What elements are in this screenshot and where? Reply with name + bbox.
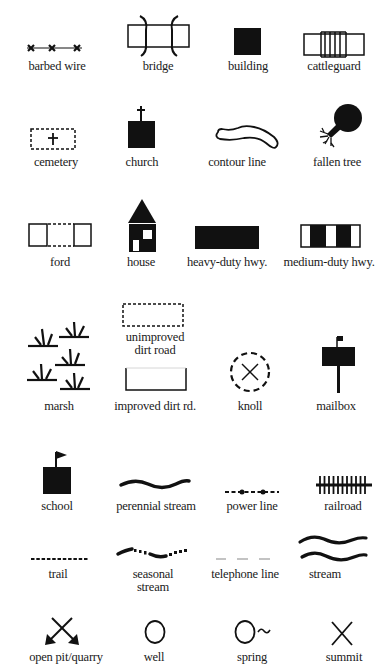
label-fallen-tree: fallen tree (313, 156, 361, 169)
heavy-duty-hwy-icon (0, 0, 377, 665)
label-railroad: railroad (324, 500, 361, 513)
fallen-tree-icon (0, 0, 377, 665)
label-telephone-line: telephone line (211, 568, 279, 581)
label-open-pit-quarry: open pit/quarry (29, 651, 103, 664)
label-seasonal-stream: seasonal stream (133, 568, 174, 594)
well-icon (0, 0, 377, 665)
church-icon (0, 0, 377, 665)
label-well: well (144, 651, 165, 664)
label-house: house (127, 256, 155, 269)
label-ford: ford (50, 256, 70, 269)
seasonal-stream-icon (0, 0, 377, 665)
stream-icon (0, 0, 377, 665)
telephone-line-icon (0, 0, 377, 665)
cattleguard-icon (0, 0, 377, 665)
label-building: building (228, 60, 268, 73)
marsh-icon (0, 0, 377, 665)
label-unimproved-line2: dirt road (126, 344, 184, 357)
school-icon (0, 0, 377, 665)
improved-dirt-rd-icon (0, 0, 377, 665)
label-trail: trail (48, 568, 67, 581)
label-mailbox: mailbox (316, 400, 356, 413)
label-improved-dirt-rd: improved dirt rd. (114, 400, 196, 413)
house-icon (0, 0, 377, 665)
trail-icon (0, 0, 377, 665)
label-cemetery: cemetery (34, 156, 78, 169)
cemetery-icon (0, 0, 377, 665)
label-heavy-duty-hwy: heavy-duty hwy. (187, 256, 267, 269)
open-pit-quarry-icon (0, 0, 377, 665)
label-knoll: knoll (238, 400, 263, 413)
label-power-line: power line (226, 500, 277, 513)
label-barbed-wire: barbed wire (28, 60, 85, 73)
label-church: church (126, 156, 159, 169)
building-icon (0, 0, 377, 665)
label-bridge: bridge (143, 60, 174, 73)
unimproved-dirt-road-icon (0, 0, 377, 665)
mailbox-icon (0, 0, 377, 665)
knoll-icon (0, 0, 377, 665)
label-cattleguard: cattleguard (307, 60, 360, 73)
label-perennial-stream: perennial stream (116, 500, 196, 513)
label-summit: summit (326, 651, 362, 664)
power-line-icon (0, 0, 377, 665)
label-medium-duty-hwy: medium-duty hwy. (283, 256, 374, 269)
ford-icon (0, 0, 377, 665)
label-spring: spring (237, 651, 267, 664)
label-school: school (41, 500, 72, 513)
label-contour-line: contour line (208, 156, 266, 169)
label-unimproved-dirt-road: unimproved dirt road (126, 331, 184, 357)
contour-line-icon (0, 0, 377, 665)
perennial-stream-icon (0, 0, 377, 665)
barbed-wire-icon (0, 0, 377, 665)
railroad-icon (0, 0, 377, 665)
medium-duty-hwy-icon (0, 0, 377, 665)
summit-icon (0, 0, 377, 665)
label-marsh: marsh (44, 400, 74, 413)
bridge-icon (0, 0, 377, 665)
label-stream: stream (309, 568, 341, 581)
label-seasonal-line2: stream (133, 581, 174, 594)
spring-icon (0, 0, 377, 665)
